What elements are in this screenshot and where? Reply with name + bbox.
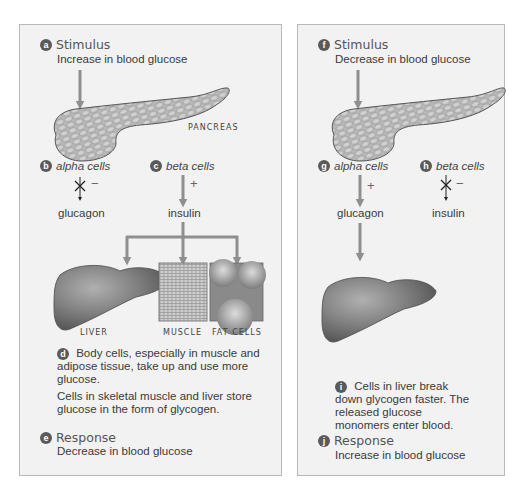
step-badge-d: d: [57, 348, 69, 360]
beta-cells-label-left: cbeta cells: [150, 156, 215, 174]
muscle-label: MUSCLE: [163, 328, 202, 337]
step-badge-c: c: [150, 160, 162, 172]
step-badge-j: j: [318, 435, 330, 447]
step-badge-e: e: [40, 432, 52, 444]
step-badge-g: g: [318, 160, 330, 172]
effect-step-left: d Body cells, especially in muscle and a…: [57, 347, 267, 386]
hypoglycemia-panel: fStimulus Decrease in blood glucose galp…: [297, 24, 505, 476]
beta-sign-right: −: [456, 176, 464, 191]
liver-illustration-right: [322, 277, 436, 342]
glucagon-label-right: glucagon: [337, 207, 384, 220]
liver-illustration: [54, 265, 168, 330]
insulin-label-right: insulin: [432, 207, 465, 220]
beta-sign-left: +: [190, 176, 198, 191]
response-text-left: Decrease in blood glucose: [57, 445, 193, 458]
response-text-right: Increase in blood glucose: [335, 449, 465, 462]
fat-cells-label: FAT CELLS: [212, 328, 262, 337]
alpha-sign-left: −: [91, 176, 99, 191]
hyperglycemia-panel: aStimulus Increase in blood glucose PANC…: [19, 24, 282, 476]
glycogen-storage-text: Cells in skeletal muscle and liver store…: [57, 390, 257, 416]
glucagon-label-left: glucagon: [58, 207, 105, 220]
beta-cells-label-right: hbeta cells: [420, 156, 485, 174]
response-heading-right: jResponse: [318, 431, 394, 449]
response-heading-left: eResponse: [40, 428, 116, 446]
step-badge-b: b: [40, 160, 52, 172]
step-badge-i: i: [335, 381, 347, 393]
effect-step-right: i Cells in liver break down glycogen fas…: [335, 380, 475, 432]
step-badge-h: h: [420, 160, 432, 172]
alpha-sign-right: +: [367, 178, 375, 193]
alpha-cells-label-right: galpha cells: [318, 156, 388, 174]
pancreas-label-left: PANCREAS: [188, 123, 239, 132]
alpha-cells-label-left: balpha cells: [40, 156, 110, 174]
muscle-illustration: [159, 263, 207, 321]
fat-cells-illustration: [209, 259, 266, 335]
liver-label: LIVER: [80, 328, 108, 337]
insulin-label-left: insulin: [168, 207, 201, 220]
